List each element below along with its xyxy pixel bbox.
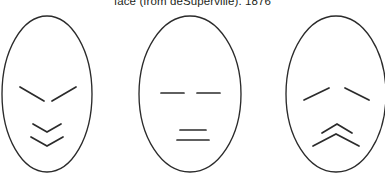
face-outline-left <box>2 16 92 172</box>
face-right <box>286 16 385 172</box>
face-outline-right <box>286 16 385 172</box>
face-left <box>2 16 92 172</box>
figure-container: face (from deSuperville). 1876 <box>0 0 385 184</box>
face-middle <box>139 16 241 172</box>
face-outline-middle <box>139 16 241 172</box>
three-faces-illustration <box>0 0 385 184</box>
